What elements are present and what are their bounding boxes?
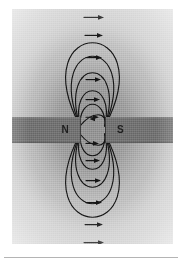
north-pole-label: N: [61, 125, 69, 135]
magnet-south-pole: S: [105, 117, 173, 143]
field-line-lower-6: [66, 134, 120, 217]
south-pole-label: S: [117, 125, 124, 135]
field-line-lower-3: [79, 134, 107, 169]
magnet-north-pole: N: [12, 117, 81, 143]
field-line-upper-3: [79, 91, 107, 126]
magnetic-field-diagram-panel: N S: [12, 9, 173, 244]
page-divider: [4, 257, 178, 258]
figure-root: N S: [0, 0, 182, 266]
field-line-inner-upper-1-arrowseg: [80, 117, 98, 126]
field-line-upper-6: [66, 43, 120, 126]
field-line-inner-upper-1: [80, 115, 105, 126]
